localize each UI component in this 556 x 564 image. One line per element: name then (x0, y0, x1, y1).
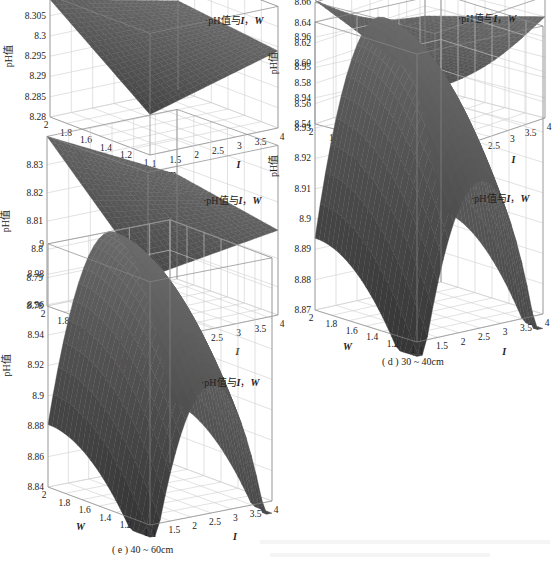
w-tick-label: 1.8 (58, 498, 70, 508)
z-tick-label: 8.81 (26, 216, 43, 226)
surface-plot-a: 8.288.2858.298.2958.38.3058.31pH值11.21.4… (0, 0, 280, 180)
z-tick-label: 8.82 (26, 188, 43, 198)
w-tick-label: 1.4 (366, 332, 378, 342)
i-axis-label: I (232, 531, 238, 542)
z-axis-label: pH值 (0, 210, 11, 232)
z-tick-label: 8.29 (29, 71, 46, 81)
surface-plot-d: 8.878.888.898.98.918.928.938.948.958.96p… (275, 180, 556, 370)
i-tick-label: 4 (547, 122, 552, 132)
z-tick-label: 8.83 (26, 160, 43, 170)
z-axis-label: pH值 (267, 155, 279, 177)
z-tick-label: 8.98 (27, 269, 44, 279)
z-tick-label: 8.66 (294, 0, 311, 7)
z-tick-label: 8.92 (294, 153, 311, 163)
z-tick-label: 8.305 (25, 11, 47, 21)
i-tick-label: 2.5 (211, 333, 223, 343)
w-axis-label: W (76, 521, 86, 532)
i-tick-label: 2 (461, 337, 466, 347)
z-tick-label: 8.96 (294, 32, 311, 42)
w-tick-label: 1.2 (120, 520, 132, 530)
legend-e: ·pH值与I，W (201, 374, 259, 389)
z-tick-label: 9 (39, 239, 44, 249)
chart-panel-d: 8.878.888.898.98.918.928.938.948.958.96p… (275, 180, 556, 370)
z-tick-label: 8.93 (294, 123, 311, 133)
i-axis-label: I (511, 154, 517, 165)
z-tick-label: 8.94 (294, 93, 311, 103)
i-tick-label: 4 (274, 505, 279, 515)
i-tick-label: 3 (233, 513, 238, 523)
i-tick-label: 1.5 (168, 525, 180, 535)
i-axis-label: I (501, 346, 507, 357)
z-tick-label: 8.9 (299, 214, 311, 224)
i-tick-label: 2 (194, 150, 199, 160)
faint-background-text (270, 553, 490, 557)
i-tick-label: 3.5 (520, 323, 532, 333)
i-axis-label: I (235, 346, 241, 357)
i-tick-label: 1.5 (436, 341, 448, 351)
z-tick-label: 8.89 (294, 244, 311, 254)
w-tick-label: 1.8 (325, 319, 337, 329)
faint-background-text (260, 540, 550, 544)
z-tick-label: 8.92 (27, 360, 44, 370)
caption-e: ( e ) 40 ~ 60cm (112, 544, 173, 555)
surface-plot-e: 8.848.868.888.98.928.948.968.989pH值11.21… (0, 370, 280, 564)
z-tick-label: 8.285 (25, 92, 47, 102)
i-tick-label: 2 (192, 521, 197, 531)
legend-d: ·pH值与I，W (471, 190, 529, 205)
z-tick-label: 8.9 (32, 391, 44, 401)
i-tick-label: 1 (152, 529, 157, 539)
z-tick-label: 8.94 (27, 330, 44, 340)
z-tick-label: 8.64 (294, 18, 311, 28)
i-tick-label: 1.5 (169, 155, 181, 165)
i-axis-label: I (235, 159, 241, 170)
w-tick-label: 2 (41, 309, 46, 319)
chart-panel-a: 8.288.2858.298.2958.38.3058.31pH值11.21.4… (0, 0, 280, 180)
i-tick-label: 3.5 (250, 509, 262, 519)
w-tick-label: 1.6 (79, 505, 91, 515)
legend-c: ·pH值与I，W (203, 192, 261, 207)
z-axis-label: pH值 (2, 45, 14, 67)
w-tick-label: 1.2 (387, 339, 399, 349)
z-tick-label: 8.95 (294, 62, 311, 72)
caption-d: ( d ) 30 ~ 40cm (382, 356, 444, 367)
z-tick-label: 8.88 (27, 421, 44, 431)
i-tick-label: 2.5 (478, 332, 490, 342)
w-tick-label: 1.4 (99, 513, 111, 523)
i-tick-label: 4 (545, 318, 550, 328)
w-tick-label: 1 (411, 345, 416, 355)
w-axis-label: W (343, 341, 353, 352)
i-tick-label: 3 (237, 141, 242, 151)
i-tick-label: 3 (510, 134, 515, 144)
i-tick-label: 3.5 (254, 324, 266, 334)
z-tick-label: 8.58 (294, 78, 311, 88)
legend-a: ·pH值与I，W (205, 12, 263, 27)
w-tick-label: 1 (144, 528, 149, 538)
z-tick-label: 8.88 (294, 275, 311, 285)
z-tick-label: 8.3 (34, 31, 46, 41)
w-tick-label: 2 (44, 120, 49, 130)
w-tick-label: 2 (42, 490, 47, 500)
i-tick-label: 2.5 (209, 517, 221, 527)
z-tick-label: 8.295 (25, 51, 47, 61)
i-tick-label: 3 (503, 327, 508, 337)
z-axis-label: pH值 (0, 354, 12, 376)
z-tick-label: 8.96 (27, 300, 44, 310)
i-tick-label: 1 (419, 346, 424, 356)
z-tick-label: 8.86 (27, 452, 44, 462)
z-tick-label: 8.91 (294, 184, 311, 194)
z-axis-label: pH值 (267, 52, 279, 74)
w-tick-label: 2 (309, 313, 314, 323)
chart-panel-e: 8.848.868.888.98.928.948.968.989pH值11.21… (0, 370, 280, 564)
w-tick-label: 1.6 (346, 326, 358, 336)
